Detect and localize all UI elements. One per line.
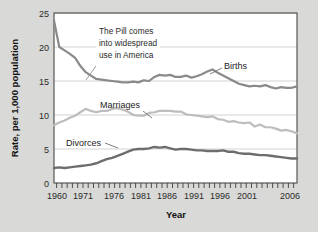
ytick-label-20: 20 — [39, 43, 49, 53]
xtick-label-1986: 1986 — [157, 191, 177, 201]
xtick-label-1976: 1976 — [104, 191, 124, 201]
ytick-label-0: 0 — [44, 179, 49, 189]
series-label-marriages: Marriages — [100, 100, 141, 110]
xtick-label-1981: 1981 — [131, 191, 151, 201]
ytick-label-5: 5 — [44, 145, 49, 155]
xtick-label-1991: 1991 — [184, 191, 204, 201]
annotation-line-2: into widespread — [99, 38, 158, 48]
annotation-line-1: The Pill comes — [99, 26, 153, 36]
series-label-divorces: Divorces — [66, 138, 102, 148]
xtick-label-1996: 1996 — [210, 191, 230, 201]
xtick-label-1971: 1971 — [73, 191, 93, 201]
xtick-label-1960: 1960 — [47, 191, 67, 201]
xtick-label-2001: 2001 — [237, 191, 257, 201]
y-axis-title: Rate, per 1,000 population — [9, 39, 20, 157]
births-marriages-divorces-line-chart: 25 20 15 10 5 0 — [0, 0, 318, 232]
series-label-births: Births — [224, 61, 248, 71]
xtick-label-2006: 2006 — [280, 191, 300, 201]
ytick-label-10: 10 — [39, 111, 49, 121]
ytick-label-15: 15 — [39, 77, 49, 87]
x-axis-title: Year — [166, 209, 186, 220]
chart-figure: 25 20 15 10 5 0 — [0, 0, 318, 232]
annotation-line-3: use in America — [99, 50, 154, 60]
ytick-label-25: 25 — [39, 9, 49, 19]
plot-area-background — [54, 13, 297, 183]
